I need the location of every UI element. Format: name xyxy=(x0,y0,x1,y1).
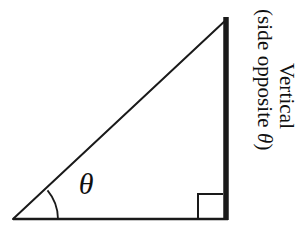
triangle-figure: θ xyxy=(0,0,305,241)
theta-angle-label: θ xyxy=(79,167,94,200)
diagram-background xyxy=(0,0,305,241)
triangle-diagram: θ Vertical (side opposite θ) xyxy=(0,0,305,241)
